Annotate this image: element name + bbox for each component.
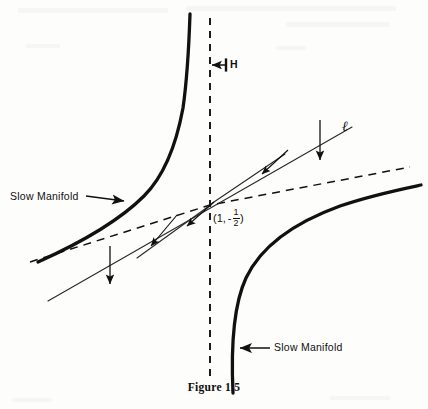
leader-slow-manifold-upper bbox=[86, 196, 124, 201]
coord-fraction-numerator: 1 bbox=[233, 208, 240, 219]
slow-manifold-upper-branch-curve bbox=[38, 14, 190, 262]
slow-manifold-lower-label: Slow Manifold bbox=[274, 341, 343, 353]
slow-manifold-lower-branch-curve bbox=[232, 185, 421, 393]
figure-drawing bbox=[0, 0, 428, 409]
line-l-label: ℓ bbox=[342, 119, 348, 135]
fixed-point-coordinate-label: ( 1 , - 1 2 ) bbox=[213, 208, 244, 228]
coord-comma: , bbox=[223, 213, 226, 224]
h-label: H bbox=[230, 58, 238, 70]
coord-minus-sign: - bbox=[228, 213, 232, 224]
coord-close-paren: ) bbox=[240, 213, 244, 224]
figure-container: Slow Manifold Slow Manifold H ℓ ( 1 , - … bbox=[0, 0, 428, 409]
short-segment-upper-right bbox=[211, 154, 285, 204]
arrow-along-l-right bbox=[262, 150, 288, 174]
short-segment-lower-left bbox=[137, 206, 209, 258]
coord-fraction-denominator: 2 bbox=[233, 219, 240, 229]
coord-fraction: 1 2 bbox=[233, 208, 240, 228]
slow-manifold-upper-label: Slow Manifold bbox=[10, 190, 79, 202]
figure-caption: Figure 1.5 bbox=[0, 381, 428, 393]
